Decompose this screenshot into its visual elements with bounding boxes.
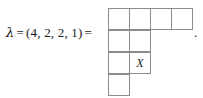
diagram-cell xyxy=(171,8,193,30)
young-diagram-figure: λ=(4, 2, 2, 1)= X . xyxy=(0,0,203,98)
cell-label xyxy=(109,31,129,51)
cell-label-x: X xyxy=(130,53,150,73)
cell-label xyxy=(151,9,171,29)
cell-label xyxy=(109,75,129,95)
cell-label xyxy=(130,31,150,51)
diagram-row xyxy=(108,74,192,96)
young-diagram-grid: X xyxy=(108,8,192,96)
diagram-cell xyxy=(129,30,151,52)
cell-label xyxy=(109,53,129,73)
equals-sign-second: = xyxy=(83,25,95,40)
diagram-cell xyxy=(108,8,130,30)
equals-sign-first: = xyxy=(14,25,26,40)
diagram-cell xyxy=(108,30,130,52)
diagram-cell-marked: X xyxy=(129,52,151,74)
diagram-row xyxy=(108,30,192,52)
partition-equation: λ=(4, 2, 2, 1)= xyxy=(6,25,94,41)
diagram-row: X xyxy=(108,52,192,74)
cell-label xyxy=(109,9,129,29)
diagram-cell xyxy=(108,74,130,96)
diagram-row xyxy=(108,8,192,30)
partition-tuple: (4, 2, 2, 1) xyxy=(26,25,83,40)
diagram-cell xyxy=(129,8,151,30)
trailing-period: . xyxy=(194,25,197,41)
cell-label xyxy=(172,9,192,29)
cell-label xyxy=(130,9,150,29)
diagram-cell xyxy=(150,8,172,30)
diagram-cell xyxy=(108,52,130,74)
